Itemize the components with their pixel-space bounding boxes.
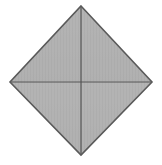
diamond-figure <box>0 0 162 165</box>
figure-canvas <box>0 0 162 165</box>
